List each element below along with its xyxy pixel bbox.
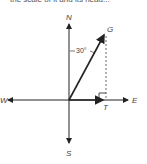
label-south: S [66,149,72,158]
label-north: N [66,13,72,22]
vector-g [69,35,104,100]
label-east: E [132,96,138,105]
right-angle-marker [99,93,106,100]
label-west: W [0,96,9,105]
vector-diagram: N S E W G T 30° [0,0,147,164]
label-angle: 30° [76,47,87,54]
label-t: T [103,103,109,112]
label-g: G [107,25,113,34]
